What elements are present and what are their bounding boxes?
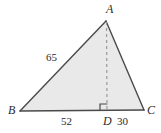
measure-label-dc: 30 bbox=[117, 116, 128, 127]
vertex-label-d: D bbox=[103, 115, 112, 127]
vertex-label-a: A bbox=[106, 3, 113, 15]
measure-label-ab: 65 bbox=[46, 52, 57, 63]
triangle-diagram-svg bbox=[0, 0, 161, 133]
measure-label-bd: 52 bbox=[61, 116, 72, 127]
segment-bc bbox=[20, 110, 144, 111]
vertex-label-b: B bbox=[8, 104, 15, 116]
vertex-label-c: C bbox=[147, 104, 155, 116]
segment-ad-altitude bbox=[107, 22, 108, 110]
geometry-figure: A B C D 65 52 30 bbox=[0, 0, 161, 133]
